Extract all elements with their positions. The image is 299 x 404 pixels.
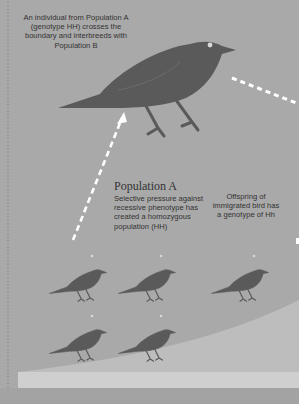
population-a-description: Selective pressure against recessive phe… [114, 194, 214, 231]
bird-eye [208, 43, 213, 48]
bird-eye [160, 315, 163, 318]
ground-band [18, 372, 299, 388]
offspring-caption: Offspring of immigrated bird has a genot… [212, 192, 280, 220]
bird-eye [253, 255, 256, 258]
immigrant-caption: An individual from Population A (genotyp… [16, 13, 136, 50]
bird-eye [91, 255, 94, 258]
bird-eye [91, 315, 94, 318]
population-a-title: Population A [114, 179, 214, 193]
arrow-fragment [296, 238, 299, 244]
bird-eye [160, 255, 163, 258]
bottom-strip [0, 388, 299, 404]
